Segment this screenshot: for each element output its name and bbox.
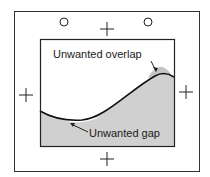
overlap-label: Unwanted overlap <box>53 48 142 60</box>
gap-label: Unwanted gap <box>89 127 160 139</box>
registration-cross-bottom <box>100 152 114 166</box>
registration-diagram: Unwanted overlap Unwanted gap <box>0 0 210 177</box>
registration-cross-left <box>19 88 33 102</box>
registration-circle-right <box>144 18 152 26</box>
registration-cross-top <box>100 22 114 36</box>
registration-cross-right <box>179 85 193 99</box>
registration-circle-left <box>60 18 68 26</box>
